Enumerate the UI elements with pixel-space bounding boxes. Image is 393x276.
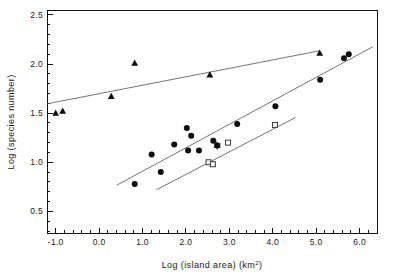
plot-canvas: -1.00.01.02.03.04.05.06.0 0.51.01.52.02.… (0, 0, 393, 276)
y-tick-label: 1.0 (30, 157, 43, 167)
svg-text:Log (island area) (km2): Log (island area) (km2) (162, 260, 263, 270)
figure-background (0, 0, 393, 276)
data-point-filled-circle (317, 77, 323, 83)
x-tick-label: 1.0 (136, 237, 149, 247)
data-point-open-square (226, 140, 231, 145)
x-tick-label: 3.0 (223, 237, 236, 247)
y-tick-label: 2.5 (30, 10, 43, 20)
data-point-filled-circle (158, 169, 164, 175)
x-tick-label: -1.0 (48, 237, 64, 247)
y-tick-label: 0.5 (30, 206, 43, 216)
data-point-filled-circle (196, 147, 202, 153)
data-point-filled-circle (341, 55, 347, 61)
x-tick-label: 4.0 (266, 237, 279, 247)
y-tick-label: 1.5 (30, 108, 43, 118)
scatter-plot-figure: -1.00.01.02.03.04.05.06.0 0.51.01.52.02.… (0, 0, 393, 276)
data-point-filled-circle (132, 181, 138, 187)
data-point-open-square (272, 122, 277, 127)
x-tick-label: 6.0 (353, 237, 366, 247)
y-tick-label: 2.0 (30, 59, 43, 69)
data-point-filled-circle (210, 138, 216, 144)
data-point-filled-circle (234, 121, 240, 127)
x-tick-label: 2.0 (180, 237, 193, 247)
data-point-filled-circle (346, 51, 352, 57)
x-axis-title: Log (island area) (km2) (162, 260, 263, 270)
data-point-open-square (210, 162, 215, 167)
x-tick-label: 0.0 (93, 237, 106, 247)
data-point-filled-circle (184, 125, 190, 131)
data-point-filled-circle (272, 103, 278, 109)
y-axis-title: Log (species number) (6, 74, 16, 169)
data-point-filled-circle (188, 133, 194, 139)
x-tick-label: 5.0 (310, 237, 323, 247)
data-point-filled-circle (149, 151, 155, 157)
data-point-filled-circle (171, 142, 177, 148)
svg-text:Log (species number): Log (species number) (6, 74, 16, 169)
data-point-filled-circle (185, 147, 191, 153)
